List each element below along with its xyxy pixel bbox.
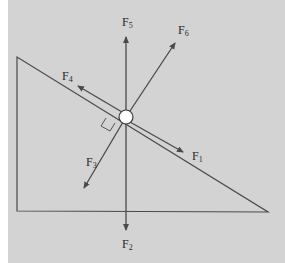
right-angle-marker (101, 118, 115, 131)
diagram-canvas: F5 F6 F4 F3 F1 F2 (0, 0, 285, 263)
label-f1: F1 (192, 149, 203, 164)
body-circle (119, 110, 133, 124)
incline-triangle (17, 57, 268, 212)
force-arrow-f6 (126, 43, 175, 117)
force-arrow-f1 (130, 122, 183, 152)
label-f2: F2 (122, 237, 133, 252)
label-f4: F4 (62, 69, 73, 84)
free-body-diagram: F5 F6 F4 F3 F1 F2 (0, 0, 285, 263)
force-vectors (78, 37, 183, 230)
label-f3: F3 (86, 155, 97, 170)
force-arrow-f3 (84, 117, 126, 188)
label-f6: F6 (178, 23, 189, 38)
label-f5: F5 (122, 15, 133, 30)
